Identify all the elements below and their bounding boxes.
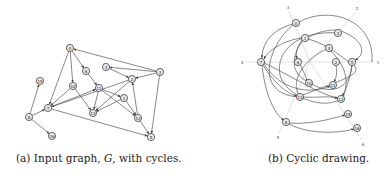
graph-node-8: 8 xyxy=(282,118,289,125)
svg-text:4: 4 xyxy=(328,46,331,51)
graph-a-edges xyxy=(30,49,159,136)
svg-text:15: 15 xyxy=(345,112,351,117)
svg-text:6: 6 xyxy=(297,60,300,65)
caption-a: (a) Input graph, G, with cycles. xyxy=(16,152,182,164)
svg-text:7: 7 xyxy=(47,106,50,111)
graph-node-11: 11 xyxy=(95,84,102,91)
svg-text:2: 2 xyxy=(131,77,134,82)
svg-text:10: 10 xyxy=(306,81,312,86)
svg-text:4: 4 xyxy=(105,65,108,70)
graph-edge xyxy=(135,73,156,78)
graph-node-2: 2 xyxy=(128,75,135,82)
graph-edge xyxy=(96,100,121,112)
graph-node-15: 15 xyxy=(36,77,43,84)
graph-node-4: 4 xyxy=(102,63,109,70)
graph-edge xyxy=(133,83,138,115)
svg-text:5: 5 xyxy=(351,60,354,65)
svg-text:13: 13 xyxy=(297,95,303,100)
svg-text:1: 1 xyxy=(123,96,126,101)
graph-node-10: 10 xyxy=(69,82,76,89)
axis-label-2: 2 xyxy=(356,6,359,11)
svg-text:11: 11 xyxy=(96,86,102,91)
graph-edge xyxy=(51,109,147,136)
svg-text:16: 16 xyxy=(49,134,55,139)
svg-text:8: 8 xyxy=(28,115,31,120)
svg-text:12: 12 xyxy=(135,116,141,121)
graph-node-5: 5 xyxy=(348,58,355,65)
graph-edge xyxy=(140,121,149,134)
graph-node-6: 6 xyxy=(82,67,89,74)
svg-text:6: 6 xyxy=(85,69,88,74)
graph-edge xyxy=(51,89,95,106)
graph-node-10: 10 xyxy=(305,79,312,86)
graph-edge xyxy=(32,119,49,133)
graph-edge xyxy=(70,52,72,83)
svg-text:1: 1 xyxy=(304,36,307,41)
graph-node-1: 1 xyxy=(120,94,127,101)
graph-edge xyxy=(51,80,128,107)
svg-text:5: 5 xyxy=(150,135,153,140)
graph-a-nodes: 046321510111713812165 xyxy=(25,44,163,140)
graph-node-13: 13 xyxy=(296,93,303,100)
svg-text:12: 12 xyxy=(338,97,344,102)
caption-b: (b) Cyclic drawing. xyxy=(268,152,369,164)
graph-edge xyxy=(109,69,128,78)
graph-node-0: 0 xyxy=(292,19,299,26)
axis-label-1: 1 xyxy=(377,60,380,65)
svg-text:3: 3 xyxy=(159,70,162,75)
graph-node-16: 16 xyxy=(353,124,360,131)
axis-label-5: 5 xyxy=(277,135,280,140)
graph-edge xyxy=(151,76,159,134)
svg-text:0: 0 xyxy=(295,21,298,26)
axis-label-6: 6 xyxy=(362,142,365,147)
graph-node-15: 15 xyxy=(344,110,351,117)
graph-node-5: 5 xyxy=(147,133,154,140)
graph-edge xyxy=(30,84,39,113)
svg-text:2: 2 xyxy=(335,60,338,65)
graph-b-edges xyxy=(262,15,372,132)
graph-node-13: 13 xyxy=(89,109,96,116)
svg-text:0: 0 xyxy=(69,46,72,51)
cyclic-drawing: 1 2 3 4 5 6 xyxy=(241,5,380,147)
graph-node-0: 0 xyxy=(66,44,73,51)
input-graph: 046321510111713812165 xyxy=(25,44,163,140)
graph-edge xyxy=(49,51,69,104)
graph-node-8: 8 xyxy=(25,113,32,120)
graph-edge xyxy=(102,90,135,116)
svg-text:11: 11 xyxy=(330,83,336,88)
graph-node-2: 2 xyxy=(332,58,339,65)
graph-edge xyxy=(72,51,84,68)
graph-edge xyxy=(32,110,44,116)
svg-text:7: 7 xyxy=(260,60,263,65)
svg-text:13: 13 xyxy=(90,111,96,116)
graph-node-4: 4 xyxy=(325,44,332,51)
graph-node-1: 1 xyxy=(301,34,308,41)
graph-node-7: 7 xyxy=(257,58,264,65)
graph-node-11: 11 xyxy=(329,81,336,88)
axis-label-4: 4 xyxy=(241,60,244,65)
graph-node-16: 16 xyxy=(48,132,55,139)
graph-edge xyxy=(94,92,98,110)
graph-node-12: 12 xyxy=(134,114,141,121)
svg-text:16: 16 xyxy=(354,126,360,131)
graph-edge xyxy=(88,74,97,85)
graph-node-7: 7 xyxy=(44,104,51,111)
svg-text:8: 8 xyxy=(285,120,288,125)
svg-text:3: 3 xyxy=(337,31,340,36)
svg-text:10: 10 xyxy=(70,84,76,89)
graph-node-3: 3 xyxy=(334,29,341,36)
graph-node-3: 3 xyxy=(156,68,163,75)
graph-node-6: 6 xyxy=(294,58,301,65)
graph-node-12: 12 xyxy=(337,95,344,102)
svg-text:15: 15 xyxy=(37,79,43,84)
axis-label-3: 3 xyxy=(287,5,290,10)
